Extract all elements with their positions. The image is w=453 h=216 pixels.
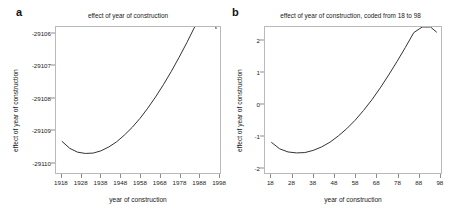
panel-a-xaxis-title: year of construction [55, 196, 221, 203]
xtick-mark [355, 174, 356, 178]
xtick-mark [199, 174, 200, 178]
data-line [62, 27, 216, 153]
data-line [271, 27, 437, 153]
panel-a-ytick-labels: -29106-29107-29108-29109-29110 [16, 26, 51, 174]
xtick-mark [419, 174, 420, 178]
xtick-label: 1918 [54, 179, 68, 186]
xtick-label: 88 [415, 179, 422, 186]
xtick-label: 38 [309, 179, 316, 186]
xtick-mark [61, 174, 62, 178]
xtick-mark [398, 174, 399, 178]
xtick-mark [81, 174, 82, 178]
xtick-mark [292, 174, 293, 178]
panel-a-xtick-labels: 191819281938194819581968197819881998 [55, 179, 221, 189]
xtick-label: 18 [267, 179, 274, 186]
ytick-label: -29107 [32, 62, 51, 69]
xtick-label: 58 [352, 179, 359, 186]
panel-a-plot-area [55, 26, 221, 174]
ytick-label: -29108 [32, 94, 51, 101]
xtick-label: 1998 [212, 179, 226, 186]
panel-b-xtick-labels: 182838485868788898 [264, 179, 442, 189]
xtick-mark [270, 174, 271, 178]
xtick-mark [376, 174, 377, 178]
xtick-mark [334, 174, 335, 178]
xtick-label: 1978 [173, 179, 187, 186]
xtick-mark [140, 174, 141, 178]
xtick-label: 1958 [133, 179, 147, 186]
xtick-mark [180, 174, 181, 178]
xtick-label: 28 [288, 179, 295, 186]
xtick-label: 68 [373, 179, 380, 186]
panel-b-ytick-labels: 210-1-2 [226, 26, 260, 174]
panel-b-xaxis-title: year of construction [264, 196, 442, 203]
xtick-mark [160, 174, 161, 178]
panel-b: b effect of year of construction, coded … [226, 0, 453, 216]
xtick-label: 98 [436, 179, 443, 186]
panel-b-xtick-marks [264, 174, 442, 178]
xtick-label: 1988 [192, 179, 206, 186]
ytick-label: -29109 [32, 127, 51, 134]
panel-b-title: effect of year of construction, coded fr… [226, 12, 453, 19]
panel-a: a effect of year of construction effect … [0, 0, 226, 216]
xtick-label: 78 [394, 179, 401, 186]
xtick-label: 1968 [153, 179, 167, 186]
xtick-mark [313, 174, 314, 178]
panel-a-xtick-marks [55, 174, 221, 178]
panel-a-curve [56, 27, 220, 173]
figure-container: a effect of year of construction effect … [0, 0, 453, 216]
xtick-mark [219, 174, 220, 178]
xtick-label: 1928 [74, 179, 88, 186]
ytick-label: -29110 [32, 159, 51, 166]
xtick-mark [440, 174, 441, 178]
xtick-label: 1948 [113, 179, 127, 186]
panel-b-plot-area [264, 26, 442, 174]
xtick-label: 1938 [94, 179, 108, 186]
xtick-label: 48 [330, 179, 337, 186]
ytick-label: -29106 [32, 29, 51, 36]
panel-a-title: effect of year of construction [0, 12, 226, 19]
xtick-mark [120, 174, 121, 178]
panel-b-curve [265, 27, 441, 173]
xtick-mark [100, 174, 101, 178]
